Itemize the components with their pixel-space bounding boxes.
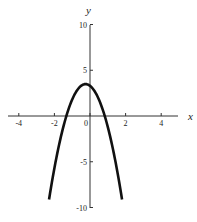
y-tick-label: -10 bbox=[76, 204, 87, 213]
x-tick-label: -4 bbox=[15, 119, 22, 128]
x-tick-label: -2 bbox=[51, 119, 58, 128]
x-axis: -4-2024 x bbox=[8, 110, 193, 128]
y-tick-label: 10 bbox=[79, 21, 87, 30]
x-tick-label: 4 bbox=[159, 119, 163, 128]
y-axis-label: y bbox=[85, 4, 91, 16]
x-axis-label: x bbox=[187, 110, 193, 122]
x-tick-label: 0 bbox=[84, 119, 88, 128]
y-tick-label: -5 bbox=[80, 158, 87, 167]
y-tick-label: 5 bbox=[83, 66, 87, 75]
parabola-curve bbox=[49, 84, 122, 199]
parabola-chart: -4-2024 x -10-5510 y bbox=[0, 0, 197, 222]
x-tick-label: 2 bbox=[124, 119, 128, 128]
y-axis: -10-5510 y bbox=[76, 4, 93, 213]
